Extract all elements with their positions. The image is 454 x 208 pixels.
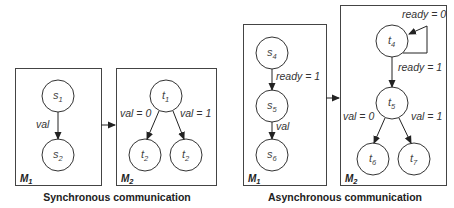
edge-label-val: val (36, 118, 50, 130)
async-caption: Asynchronous communication (268, 191, 422, 203)
edge-label-val0-t: val = 0 (343, 110, 374, 122)
edge-label-val: val (276, 120, 290, 132)
edge-label-ready0: ready = 0 (402, 8, 446, 20)
sync-caption: Synchronous communication (43, 191, 191, 203)
edge-label-ready1: ready = 1 (276, 70, 320, 82)
edge-label-val0: val = 0 (120, 107, 151, 119)
edge-label-ready1-t: ready = 1 (398, 61, 442, 73)
edge-label-val1: val = 1 (180, 107, 211, 119)
communication-diagram: s1 s2 val M1 t1 t2 t2 val = 0 val = 1 M2… (0, 0, 454, 208)
edge-label-val1-t: val = 1 (411, 110, 442, 122)
